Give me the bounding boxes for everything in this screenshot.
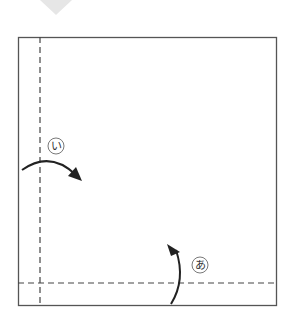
label-a: あ: [195, 259, 206, 272]
origami-diagram: い あ: [0, 0, 292, 322]
paper-square: [19, 38, 277, 306]
label-i: い: [51, 140, 62, 153]
step-indicator-arrow-icon: [40, 0, 72, 15]
